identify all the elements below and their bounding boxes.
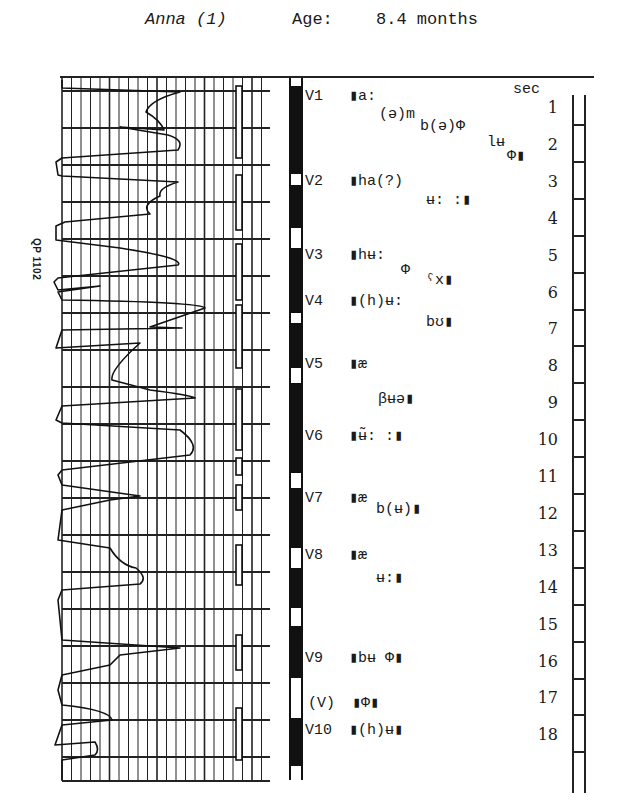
seconds-tick [574,493,584,495]
seconds-tick [574,124,584,126]
phonetic-text: ▮a: [349,88,376,105]
transcription-v9: V9▮bʉ Φ▮ [305,648,403,667]
vocalization-label: V5 [305,356,349,373]
voiced-segment [291,626,301,678]
phonetic-text: Φ▮ [507,148,525,165]
seconds-tick-label: 2 [528,135,558,154]
seconds-tick [574,456,584,458]
vocalization-label: V9 [305,650,349,667]
seconds-tick [574,272,584,274]
seconds-tick-label: 12 [528,504,558,523]
transcription-v2: V2▮ha(?) [305,171,403,190]
seconds-tick [574,235,584,237]
phonetic-text: βʉə▮ [378,391,414,408]
transcription-v2b: ʉ: :▮ [426,190,471,209]
seconds-tick [574,345,584,347]
vocalization-label: V1 [305,88,349,105]
transcription-v7b: b(ʉ)▮ [376,499,421,518]
seconds-tick-label: 1 [528,98,558,117]
vocalization-label: V8 [305,547,349,564]
phonetic-text: ▮bʉ Φ▮ [349,650,403,667]
phonetic-text: ▮æ [349,356,367,373]
seconds-tick [574,641,584,643]
voiced-segment [291,568,301,608]
transcription-v6: V6▮ʉ̃: :▮ [305,426,403,445]
seconds-tick-label: 8 [528,356,558,375]
voiced-segment [291,383,301,473]
phonetic-text: ▮(h)ʉ▮ [349,722,403,739]
phonetic-text: ʉ:▮ [376,570,403,587]
phonetic-text: ▮æ [349,490,367,507]
phonetic-text: ▮hʉ: [349,247,385,264]
pitch-trace-line [54,80,205,780]
phonetic-text: ▮æ [349,547,367,564]
seconds-tick [574,567,584,569]
phonetic-text: Φ [401,262,410,279]
transcription-v3b: Φ [401,262,410,279]
seconds-tick [574,678,584,680]
phonetic-text: ▮ʉ̃: :▮ [349,428,403,445]
phonetic-text: ▮ha(?) [349,173,403,190]
vocalization-label: V2 [305,173,349,190]
seconds-tick [574,751,584,753]
voiced-segment [291,488,301,548]
seconds-tick-label: 17 [528,688,558,707]
seconds-tick-label: 16 [528,652,558,671]
voiced-segment [291,718,301,766]
voiced-segment [291,86,301,174]
seconds-tick-label: 10 [528,430,558,449]
seconds-tick [574,161,584,163]
vocalization-label: V3 [305,247,349,264]
seconds-tick [574,198,584,200]
transcription-v5: V5▮æ [305,354,367,373]
seconds-tick-label: 13 [528,541,558,560]
voiced-segment [291,248,301,313]
seconds-tick-label: 7 [528,319,558,338]
phonetic-text: lʉ [487,134,505,151]
seconds-tick-label: 5 [528,246,558,265]
phonetic-text: bʊ▮ [426,314,453,331]
transcription-v1c: b(ə)Φ [420,118,465,135]
seconds-tick [574,419,584,421]
seconds-tick [574,714,584,716]
seconds-tick-label: 14 [528,578,558,597]
transcription-v3c: ˤx▮ [426,270,453,289]
seconds-tick-label: 18 [528,725,558,744]
seconds-tick-label: 11 [528,467,558,486]
seconds-tick [574,309,584,311]
phonetic-text: ▮(h)ʉ: [349,293,403,310]
seconds-tick-label: 6 [528,283,558,302]
segment-markers [236,86,242,760]
vocalization-label: V4 [305,293,349,310]
transcription-v4b: bʊ▮ [426,312,453,331]
transcription-v1d: lʉ [487,134,505,151]
transcription-v1: V1▮a: [305,86,376,105]
transcription-v1e: Φ▮ [507,146,525,165]
phonetic-text: ˤx▮ [426,272,453,289]
transcription-v4: V4▮(h)ʉ: [305,291,403,310]
transcription-v10: V10▮(h)ʉ▮ [305,720,403,739]
seconds-tick-label: 9 [528,393,558,412]
vocalization-label: V6 [305,428,349,445]
voicing-bar [289,78,303,780]
vocalization-label: V7 [305,490,349,507]
transcription-v8b: ʉ:▮ [376,568,403,587]
seconds-tick [574,530,584,532]
transcription-v3: V3▮hʉ: [305,245,385,264]
time-ladder [572,95,586,793]
transcription-v8: V8▮æ [305,545,367,564]
seconds-tick-label: 15 [528,615,558,634]
transcription-v5b: βʉə▮ [378,389,414,408]
phonetic-text: ▮Φ▮ [352,695,379,712]
transcription-v1b: (ə)m [379,106,415,123]
vocalization-label: (V) [308,695,352,712]
seconds-tick-label: 3 [528,172,558,191]
phonetic-text: (ə)m [379,106,415,123]
voiced-segment [291,323,301,368]
pitch-trace-chart [0,0,619,808]
phonetic-text: b(ə)Φ [420,118,465,135]
voiced-segment [291,185,301,228]
phonetic-text: b(ʉ)▮ [376,501,421,518]
seconds-tick [574,604,584,606]
transcription-v-: (V)▮Φ▮ [308,693,379,712]
